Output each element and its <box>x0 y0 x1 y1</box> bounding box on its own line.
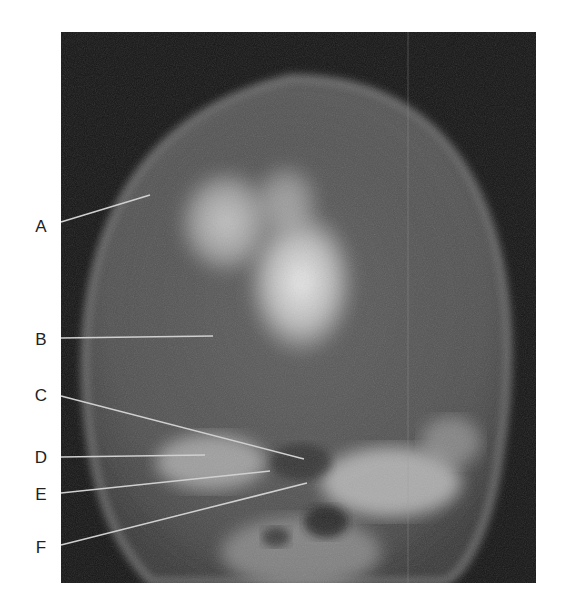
label-a: A <box>33 218 49 235</box>
xray-rendering <box>61 32 536 583</box>
label-e: E <box>33 486 49 503</box>
label-f: F <box>33 539 49 556</box>
skull-xray-image <box>61 32 536 583</box>
label-b: B <box>33 331 49 348</box>
label-c: C <box>33 387 49 404</box>
label-d: D <box>33 449 49 466</box>
